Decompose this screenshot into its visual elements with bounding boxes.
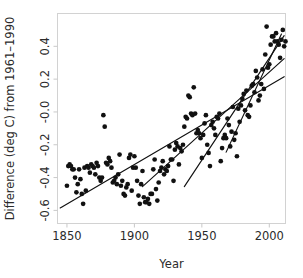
y-tick-label: -0.0 — [38, 101, 52, 123]
y-axis-tickmarks — [54, 46, 58, 210]
data-point — [115, 182, 120, 187]
data-point — [268, 42, 273, 47]
data-point — [135, 178, 140, 183]
data-point — [229, 129, 234, 134]
y-tick-label: 0.2 — [38, 70, 52, 88]
data-point — [78, 177, 83, 182]
data-point — [137, 201, 142, 206]
data-point — [204, 113, 209, 118]
data-point — [132, 154, 137, 159]
data-point — [123, 193, 128, 198]
data-point — [274, 31, 279, 36]
data-point — [65, 183, 70, 188]
data-point — [88, 170, 93, 175]
data-point — [247, 115, 252, 120]
data-point — [96, 164, 101, 169]
data-point — [218, 159, 223, 164]
data-point — [191, 85, 196, 90]
data-point — [128, 152, 133, 157]
data-point — [146, 197, 151, 202]
data-point — [226, 123, 231, 128]
data-point — [177, 162, 182, 167]
data-point — [150, 192, 155, 197]
y-tick-label: -0.2 — [38, 134, 52, 156]
data-point — [101, 113, 106, 118]
x-tick-label: 1900 — [120, 229, 149, 243]
x-axis-tick-labels: 1850190019502000 — [52, 229, 284, 243]
data-point — [100, 175, 105, 180]
data-point — [140, 169, 145, 174]
data-point — [120, 178, 125, 183]
data-point — [117, 152, 122, 157]
data-point — [182, 124, 187, 129]
data-point — [282, 44, 287, 49]
data-point — [171, 178, 176, 183]
data-point — [136, 193, 141, 198]
x-tick-label: 1950 — [187, 229, 216, 243]
x-axis-tickmarks — [67, 224, 269, 228]
y-axis-tick-labels: -0.6-0.4-0.2-0.00.20.4 — [38, 37, 52, 221]
data-point — [187, 95, 192, 100]
y-axis-title: Difference (deg C) from 1961–1990 — [3, 17, 17, 221]
data-point — [224, 136, 229, 141]
data-point — [73, 175, 78, 180]
y-tick-label: -0.4 — [38, 166, 52, 188]
data-point — [75, 182, 80, 187]
data-point — [164, 169, 169, 174]
x-tick-label: 1850 — [52, 229, 81, 243]
data-point — [220, 146, 225, 151]
plot-frame — [58, 14, 286, 224]
data-point — [93, 172, 98, 177]
data-point — [152, 157, 157, 162]
data-point — [74, 190, 79, 195]
data-point — [133, 165, 138, 170]
data-point — [102, 124, 107, 129]
data-point — [283, 39, 288, 44]
data-point — [256, 98, 261, 103]
data-point — [151, 167, 156, 172]
y-tick-label: -0.6 — [38, 199, 52, 221]
data-point — [185, 116, 190, 121]
data-point — [208, 164, 213, 169]
data-point — [259, 82, 264, 87]
data-point — [193, 111, 198, 116]
data-point — [129, 188, 134, 193]
data-point — [71, 167, 76, 172]
trend-1940-2010 — [184, 36, 284, 187]
data-point — [155, 198, 160, 203]
data-point — [154, 187, 159, 192]
data-point — [263, 52, 268, 57]
trend-1970-2010 — [226, 34, 281, 152]
data-point — [235, 154, 240, 159]
data-point — [125, 182, 130, 187]
chart-canvas: 1850190019502000 -0.6-0.4-0.2-0.00.20.4 … — [0, 0, 303, 278]
trend-1850-2010 — [60, 77, 284, 208]
scatter-points — [65, 24, 288, 206]
data-point — [280, 28, 285, 33]
data-point — [109, 165, 114, 170]
data-point — [205, 142, 210, 147]
data-point — [147, 201, 152, 206]
y-tick-label: 0.4 — [38, 37, 52, 55]
x-tick-label: 2000 — [255, 229, 284, 243]
trend-1910-2010 — [142, 59, 284, 187]
temperature-anomaly-chart: 1850190019502000 -0.6-0.4-0.2-0.00.20.4 … — [0, 0, 303, 278]
x-axis-title: Year — [158, 257, 184, 271]
data-point — [141, 195, 146, 200]
data-point — [212, 126, 217, 131]
data-point — [258, 93, 263, 98]
data-point — [108, 159, 113, 164]
data-point — [119, 183, 124, 188]
data-point — [156, 180, 161, 185]
data-point — [253, 69, 258, 74]
data-point — [278, 55, 283, 60]
data-point — [181, 142, 186, 147]
data-point — [264, 24, 269, 29]
data-point — [77, 167, 82, 172]
data-point — [81, 201, 86, 206]
data-point — [160, 159, 165, 164]
data-point — [92, 165, 97, 170]
